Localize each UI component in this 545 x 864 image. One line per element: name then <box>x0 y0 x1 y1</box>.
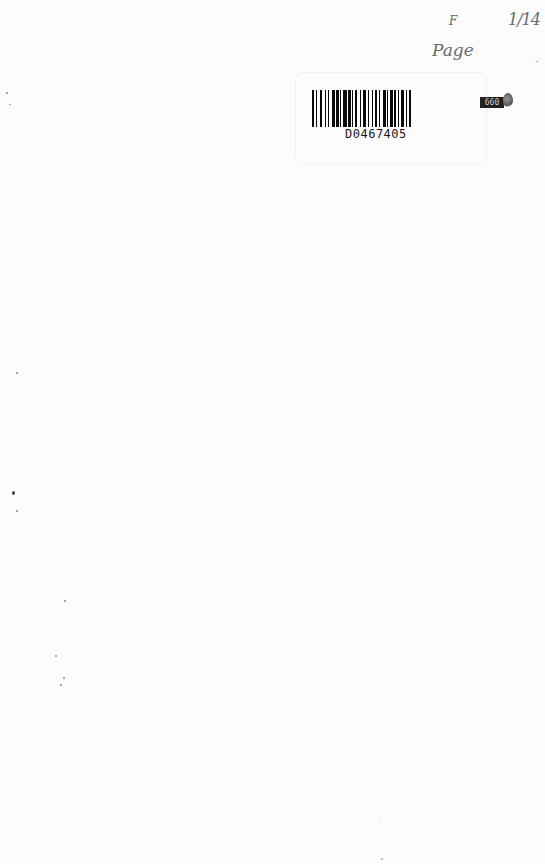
scan-speck <box>55 655 57 657</box>
scan-speck <box>63 677 65 679</box>
library-sticker: 660 <box>480 97 504 108</box>
scan-speck <box>380 820 381 821</box>
handwritten-dash: - <box>535 55 538 66</box>
scanned-page: F 1/14 Page - D0467405 660 <box>0 0 545 864</box>
handwritten-word: Page <box>432 40 474 60</box>
sticker-smudge <box>503 93 513 108</box>
scan-speck <box>6 92 8 94</box>
scan-speck <box>16 510 18 512</box>
barcode-number: D0467405 <box>345 127 407 141</box>
scan-speck <box>16 372 18 374</box>
scan-speck <box>381 858 383 860</box>
barcode <box>312 90 454 127</box>
scan-speck <box>64 600 66 602</box>
scan-speck <box>60 684 62 686</box>
handwritten-fraction: 1/14 <box>508 10 540 29</box>
scan-speck <box>9 104 11 105</box>
handwritten-mark: F <box>449 14 457 28</box>
scan-speck <box>12 491 15 495</box>
